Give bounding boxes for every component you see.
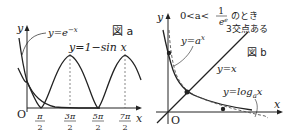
svg-text:1: 1: [218, 6, 224, 16]
y-axis-arrow-b: [166, 13, 171, 19]
intersection-point-upper: [167, 51, 171, 55]
label-a-pow-x: y=ax: [180, 34, 205, 46]
y-axis-label-a: y: [16, 22, 24, 35]
tick-3pi-over-2: 3π 2: [64, 112, 76, 132]
y-axis-label-b: y: [156, 11, 164, 24]
figure-a-tag: 図 a: [112, 25, 133, 38]
figure-b: y x O 0<a< 1 ee のとき 3交点ある y=ax 図 b y=x y…: [156, 6, 283, 127]
svg-text:7π: 7π: [120, 112, 131, 121]
figure-b-tag: 図 b: [247, 47, 267, 58]
svg-text:2: 2: [95, 123, 100, 132]
intersections-note: 3交点ある: [226, 23, 268, 34]
origin-label-a: O: [17, 108, 26, 121]
tick-7pi-over-2: 7π 2: [119, 112, 131, 132]
svg-text:2: 2: [122, 123, 127, 132]
y-axis-arrow-a: [25, 25, 30, 31]
leader-exp-label: [22, 33, 46, 55]
origin-label-b: O: [171, 114, 180, 127]
intersection-point-lower: [221, 107, 225, 111]
svg-text:2: 2: [67, 123, 72, 132]
label-y-equals-x: y=x: [216, 63, 237, 74]
intersection-point-middle: [185, 90, 190, 95]
svg-text:5π: 5π: [93, 112, 104, 121]
tick-5pi-over-2: 5π 2: [92, 112, 104, 132]
svg-text:π: π: [36, 112, 43, 121]
svg-text:のとき: のとき: [231, 11, 258, 21]
svg-text:3π: 3π: [65, 112, 76, 121]
svg-text:0<a<: 0<a<: [180, 10, 209, 21]
x-axis-arrow-a: [136, 106, 142, 111]
label-one-minus-sin: y=1−sin x: [68, 41, 127, 54]
x-axis-label-a: x: [136, 112, 143, 125]
label-log-a-x: y=logax: [222, 86, 263, 100]
leader-a-pow-x: [174, 46, 193, 66]
tick-pi-over-2: π 2: [35, 112, 45, 132]
label-exp-neg-x: y=e−x: [47, 26, 78, 38]
diagram-canvas: y x O y=e−x y=1−sin x 図 a π 2 3π 2 5π 2 …: [0, 0, 285, 139]
figure-a: y x O y=e−x y=1−sin x 図 a π 2 3π 2 5π 2 …: [16, 22, 143, 132]
svg-text:2: 2: [37, 123, 42, 132]
curve-one-minus-sin: [18, 55, 141, 108]
x-axis-label-b: x: [274, 98, 281, 111]
